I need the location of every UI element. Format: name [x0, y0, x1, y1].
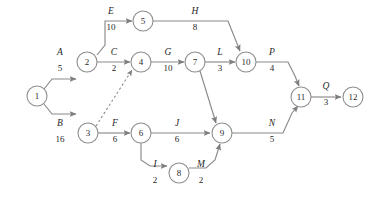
node-label-9: 9 — [220, 128, 225, 138]
node-label-4: 4 — [139, 57, 144, 67]
node-label-3: 3 — [86, 128, 91, 138]
activity-duration-f: 6 — [113, 134, 118, 144]
activity-name-p: P — [268, 47, 275, 57]
node-label-5: 5 — [141, 16, 146, 26]
node-11[interactable]: 11 — [291, 87, 311, 107]
network-diagram-canvas: 123456789101112 A5B16C2E10F6G10H8I2J6L3M… — [0, 0, 380, 197]
node-label-2: 2 — [85, 57, 90, 67]
activity-name-g: G — [165, 47, 172, 57]
activity-name-b: B — [57, 118, 63, 128]
activity-name-q: Q — [323, 81, 330, 91]
edge-labels-layer: A5B16C2E10F6G10H8I2J6L3M2N5P4Q3 — [56, 6, 330, 185]
edge-k — [200, 71, 216, 123]
node-6[interactable]: 6 — [131, 123, 151, 143]
activity-name-a: A — [56, 47, 63, 57]
node-label-1: 1 — [35, 91, 40, 101]
activity-duration-h: 8 — [193, 22, 198, 32]
activity-duration-p: 4 — [270, 63, 275, 73]
activity-duration-j: 6 — [175, 134, 180, 144]
activity-name-e: E — [107, 6, 114, 16]
activity-name-h: H — [191, 6, 200, 16]
activity-duration-e: 10 — [107, 22, 117, 32]
node-label-8: 8 — [177, 168, 182, 178]
node-4[interactable]: 4 — [131, 52, 151, 72]
node-label-7: 7 — [193, 57, 198, 67]
edge-a — [44, 79, 76, 89]
node-label-12: 12 — [349, 92, 358, 102]
node-7[interactable]: 7 — [185, 52, 205, 72]
activity-duration-g: 10 — [164, 63, 174, 73]
node-1[interactable]: 1 — [27, 86, 47, 106]
activity-name-j: J — [175, 118, 180, 128]
node-label-11: 11 — [297, 92, 306, 102]
activity-name-m: M — [196, 159, 206, 169]
activity-name-f: F — [111, 118, 118, 128]
activity-name-l: L — [216, 47, 222, 57]
activity-duration-m: 2 — [199, 175, 204, 185]
activity-duration-b: 16 — [56, 134, 66, 144]
node-label-6: 6 — [139, 128, 144, 138]
activity-duration-c: 2 — [112, 63, 117, 73]
activity-name-c: C — [111, 47, 118, 57]
activity-duration-a: 5 — [58, 63, 63, 73]
edge-p — [256, 62, 299, 86]
node-2[interactable]: 2 — [77, 52, 97, 72]
node-8[interactable]: 8 — [169, 163, 189, 183]
activity-duration-l: 3 — [218, 63, 223, 73]
node-label-10: 10 — [242, 57, 252, 67]
node-12[interactable]: 12 — [343, 87, 363, 107]
edge-n — [232, 106, 298, 133]
activity-duration-n: 5 — [270, 134, 275, 144]
node-9[interactable]: 9 — [212, 123, 232, 143]
node-3[interactable]: 3 — [78, 123, 98, 143]
node-10[interactable]: 10 — [236, 52, 256, 72]
edge-b — [44, 104, 76, 114]
node-5[interactable]: 5 — [133, 11, 153, 31]
activity-name-i: I — [152, 159, 157, 169]
network-diagram-svg: 123456789101112 A5B16C2E10F6G10H8I2J6L3M… — [0, 0, 380, 197]
activity-duration-q: 3 — [324, 97, 329, 107]
activity-name-n: N — [268, 118, 276, 128]
activity-duration-i: 2 — [153, 175, 158, 185]
